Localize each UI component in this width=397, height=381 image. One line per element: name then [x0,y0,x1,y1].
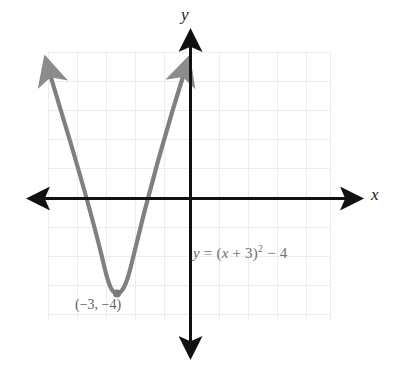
coordinate-plane-svg [0,0,397,381]
y-axis-label: y [181,6,189,23]
equation-tail: − 4 [263,245,287,261]
x-axis-label: x [371,186,379,203]
equation-lhs: y [193,245,200,261]
parabola-curve [47,62,188,294]
equation-mid: + 3) [228,245,257,261]
equation-label: y = (x + 3)2 − 4 [193,246,287,261]
equation-eq: = ( [200,245,222,261]
vertex-point-label: (−3, −4) [75,298,121,312]
graph-figure: y x y = (x + 3)2 − 4 (−3, −4) [0,0,397,381]
